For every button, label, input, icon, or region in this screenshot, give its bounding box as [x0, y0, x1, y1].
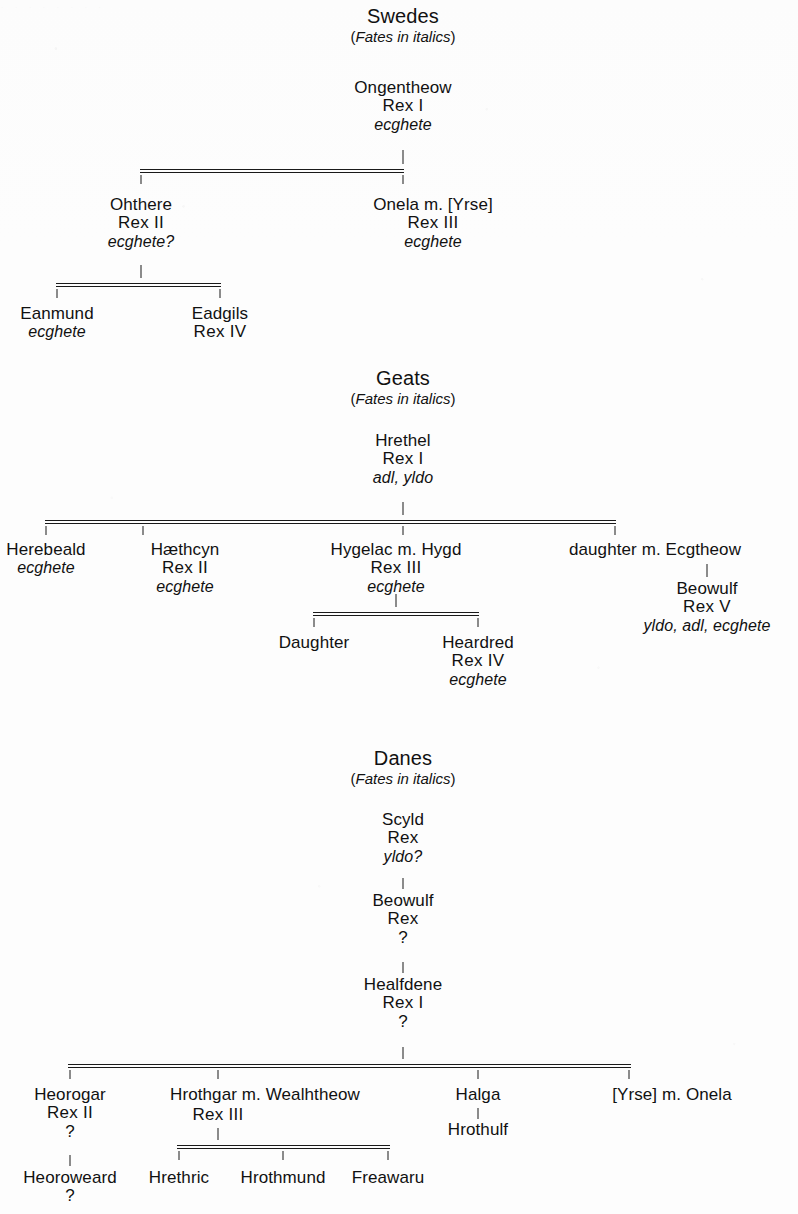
node-freawaru: Freawaru: [352, 1169, 425, 1187]
connector-bar-hrothgar-children: [177, 1145, 390, 1149]
node-ongentheow: Ongentheow Rex I ecghete: [354, 79, 451, 133]
node-heardred: Heardred Rex IV ecghete: [442, 634, 514, 688]
group-title-swedes: Swedes (Fates in italics): [350, 6, 455, 45]
group-title-geats: Geats (Fates in italics): [350, 368, 455, 407]
node-hrothgar: Hrothgar m. Wealhtheow: [170, 1086, 360, 1104]
connector-bar-ohthere-children: [56, 283, 221, 287]
node-hygelac: Hygelac m. Hygd Rex III ecghete: [331, 541, 462, 595]
node-haethcyn: Hæthcyn Rex II ecghete: [151, 541, 220, 595]
tick-heardred: [478, 618, 479, 627]
group-subtitle-swedes: (Fates in italics): [350, 29, 455, 45]
node-heoroweard: Heoroweard ?: [23, 1169, 117, 1206]
tick-halga: [478, 1070, 479, 1079]
genealogy-chart-page: · · · · · · · · Swedes (Fates in italics…: [0, 0, 798, 1214]
node-daughter-ecgtheow: daughter m. Ecgtheow: [569, 541, 741, 559]
node-halga: Halga: [456, 1086, 501, 1104]
node-hrethel: Hrethel Rex I adl, yldo: [373, 432, 434, 486]
node-hrothgar-rank: Rex III: [192, 1106, 243, 1124]
node-scyld: Scyld Rex yldo?: [382, 811, 424, 865]
tick-ohthere: [141, 175, 142, 184]
tick-herebeald: [46, 526, 47, 535]
node-beowulf-geats: Beowulf Rex V yldo, adl, ecghete: [643, 580, 770, 634]
group-title-danes: Danes (Fates in italics): [350, 748, 455, 787]
node-eanmund: Eanmund ecghete: [20, 305, 93, 341]
node-herebeald: Herebeald ecghete: [6, 541, 85, 577]
tick-onela: [403, 175, 404, 184]
node-ohthere: Ohthere Rex II ecghete?: [108, 196, 175, 250]
connector-heorogar-stem: [70, 1155, 71, 1166]
connector-bar-hrethel-children: [45, 520, 616, 524]
tick-hrothmund: [283, 1151, 284, 1160]
tick-eadgils: [220, 289, 221, 298]
connector-hrethel-stem: [403, 502, 404, 515]
connector-ongentheow-stem: [403, 150, 404, 164]
tick-daughter-geats: [314, 618, 315, 627]
connector-ohthere-stem: [141, 265, 142, 278]
connector-hygelac-stem: [396, 594, 397, 607]
group-subtitle-geats: (Fates in italics): [350, 391, 455, 407]
node-healfdene: Healfdene Rex I ?: [364, 976, 442, 1031]
tick-heorogar: [70, 1070, 71, 1079]
cropped-bottom-question-mark: ?: [23, 1187, 117, 1205]
node-hrothmund: Hrothmund: [241, 1169, 326, 1187]
tick-hrethric: [179, 1151, 180, 1160]
connector-ecgtheow-stem: [707, 564, 708, 577]
node-eadgils: Eadgils Rex IV: [192, 305, 248, 342]
node-hrothulf: Hrothulf: [448, 1121, 508, 1139]
connector-hrothgar-stem: [218, 1128, 219, 1140]
tick-haethcyn: [143, 526, 144, 535]
tick-freawaru: [388, 1151, 389, 1160]
connector-halga-stem: [478, 1108, 479, 1119]
node-hrethric: Hrethric: [149, 1169, 209, 1187]
group-subtitle-danes: (Fates in italics): [350, 771, 455, 787]
connector-bar-healfdene-children: [68, 1064, 631, 1068]
node-beowulf-danes: Beowulf Rex ?: [372, 892, 433, 947]
tick-yrse: [629, 1070, 630, 1079]
node-heorogar: Heorogar Rex II ?: [34, 1086, 106, 1141]
connector-beowulf-danes-stem: [403, 962, 404, 973]
tick-daughter: [615, 526, 616, 535]
connector-scyld-stem: [403, 878, 404, 889]
connector-healfdene-stem: [403, 1047, 404, 1059]
tick-hygelac: [403, 526, 404, 535]
connector-bar-hygelac-children: [313, 612, 479, 616]
node-yrse-onela: [Yrse] m. Onela: [612, 1086, 732, 1104]
tick-eanmund: [57, 289, 58, 298]
node-onela: Onela m. [Yrse] Rex III ecghete: [373, 196, 493, 250]
node-daughter-geats: Daughter: [279, 634, 350, 652]
tick-hrothgar: [218, 1070, 219, 1079]
connector-bar-ongentheow-children: [140, 169, 404, 173]
